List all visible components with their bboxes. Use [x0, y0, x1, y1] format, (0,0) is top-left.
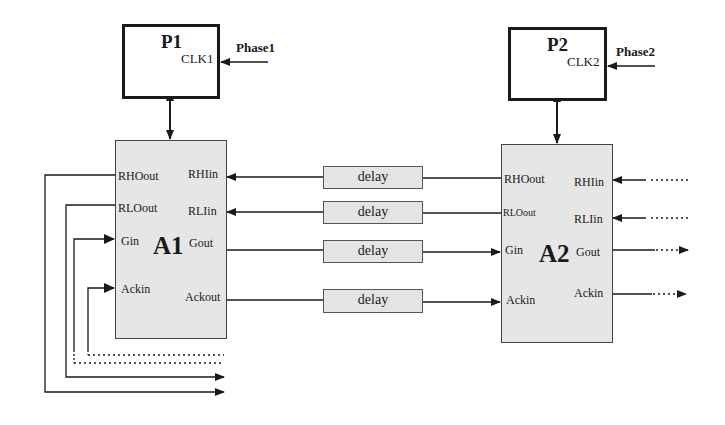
delay-block-1: delay: [323, 166, 423, 189]
port-a1-rliin: RLIin: [188, 204, 217, 219]
processor-p2-label: P2: [547, 34, 568, 56]
port-a2-ackin-left: Ackin: [506, 293, 535, 308]
delay-block-4: delay: [323, 289, 423, 313]
arbiter-a1: A1 RHOout RLOout Gin Ackin RHIin RLIin G…: [115, 140, 227, 339]
port-a1-rhoout: RHOout: [118, 169, 159, 184]
arbiter-a1-label: A1: [153, 232, 184, 260]
port-a2-ackin-right: Ackin: [574, 286, 603, 301]
clock-label-clk1: CLK1: [181, 51, 214, 67]
port-a1-ackout: Ackout: [185, 290, 220, 305]
clock-label-clk2: CLK2: [567, 54, 600, 70]
processor-p1: P1 CLK1: [122, 24, 220, 99]
delay-block-3: delay: [323, 240, 423, 263]
port-a1-gin: Gin: [121, 234, 139, 249]
arbiter-a2-label: A2: [539, 240, 570, 268]
arbiter-a2: A2 RHOout RLOout Gin Ackin RHIin RLIin G…: [501, 144, 613, 343]
port-a2-gout: Gout: [576, 245, 600, 260]
port-a1-ackin: Ackin: [121, 282, 150, 297]
port-a2-rloout: RLOout: [503, 207, 536, 218]
port-a1-gout: Gout: [189, 236, 213, 251]
processor-p1-label: P1: [161, 31, 182, 53]
delay-block-2: delay: [323, 201, 423, 224]
port-a2-gin: Gin: [505, 243, 523, 258]
phase1-label: Phase1: [236, 40, 275, 56]
port-a1-rloout: RLOout: [118, 201, 157, 216]
phase2-label: Phase2: [616, 44, 655, 60]
port-a2-rhoout: RHOout: [504, 172, 545, 187]
port-a2-rliin: RLIin: [574, 212, 603, 227]
processor-p2: P2 CLK2: [508, 27, 607, 101]
port-a1-rhiin: RHIin: [188, 167, 218, 182]
port-a2-rhiin: RHIin: [574, 175, 604, 190]
